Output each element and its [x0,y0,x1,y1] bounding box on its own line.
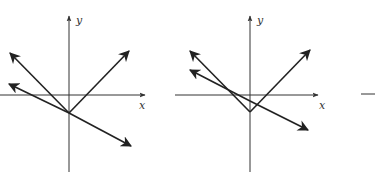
line-descending [190,70,250,101]
x-axis-label: x [139,99,146,112]
y-axis-label: y [256,14,264,27]
y-axis-label: y [75,14,83,27]
graph-panel-2: x y [175,14,326,172]
line-descending-right [250,101,308,130]
ray-upper-right [69,51,129,113]
line-descending-right [69,113,131,146]
ray-upper-left [10,53,69,113]
ray-upper-right [250,50,310,112]
graph-panel-1: x y [0,14,146,172]
figure-canvas: x y x y [0,0,375,175]
x-axis-label: x [319,99,326,112]
ray-upper-left [190,51,250,112]
line-descending [9,84,69,113]
